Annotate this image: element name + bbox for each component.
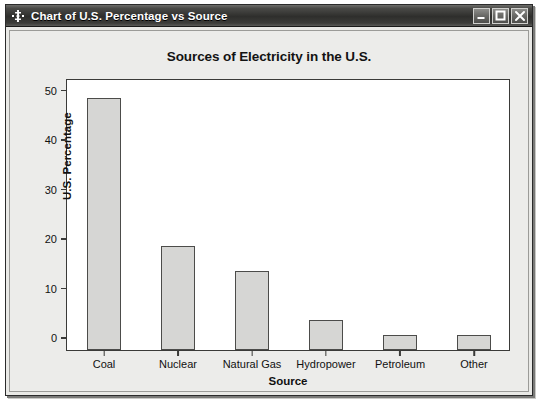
chart-canvas: Sources of Electricity in the U.S. U.S. … [10, 31, 528, 391]
x-axis-title: Source [67, 375, 509, 387]
y-tick: 10 [45, 283, 67, 295]
x-tick: Hydropower [296, 350, 355, 370]
bar-hydropower[interactable] [309, 320, 343, 350]
x-tick: Nuclear [159, 350, 197, 370]
y-tick-label: 50 [45, 85, 61, 97]
x-tick-label: Nuclear [159, 358, 197, 370]
minimize-icon [474, 9, 489, 23]
y-tick: 50 [45, 85, 67, 97]
x-tick-label: Petroleum [375, 358, 425, 370]
x-tick: Coal [93, 350, 116, 370]
bar-coal[interactable] [87, 98, 121, 350]
y-tick-label: 30 [45, 184, 61, 196]
bar-other[interactable] [457, 335, 491, 350]
window-title: Chart of U.S. Percentage vs Source [31, 10, 473, 22]
y-tick-label: 10 [45, 283, 61, 295]
y-tick-label: 20 [45, 233, 61, 245]
maximize-icon [493, 9, 508, 23]
x-tick-label: Hydropower [296, 358, 355, 370]
minimize-button[interactable] [473, 8, 490, 24]
bar-slot [215, 80, 289, 350]
y-tick: 0 [51, 332, 67, 344]
bar-slot [437, 80, 511, 350]
bar-petroleum[interactable] [383, 335, 417, 350]
x-tick-mark [399, 350, 401, 356]
close-icon [512, 9, 527, 23]
x-tick-mark [473, 350, 475, 356]
bar-slot [363, 80, 437, 350]
bar-series [67, 80, 509, 350]
x-tick: Other [460, 350, 488, 370]
x-tick-mark [251, 350, 253, 356]
y-tick: 30 [45, 184, 67, 196]
x-tick-label: Natural Gas [223, 358, 282, 370]
x-tick-label: Coal [93, 358, 116, 370]
maximize-button[interactable] [492, 8, 509, 24]
chart-title: Sources of Electricity in the U.S. [10, 49, 528, 64]
x-tick-mark [177, 350, 179, 356]
move-crosshair-icon [11, 9, 25, 23]
close-button[interactable] [511, 8, 528, 24]
bar-slot [141, 80, 215, 350]
bar-nuclear[interactable] [161, 246, 195, 350]
y-tick: 40 [45, 134, 67, 146]
y-tick: 20 [45, 233, 67, 245]
bar-slot [289, 80, 363, 350]
bar-slot [67, 80, 141, 350]
plot-area: U.S. Percentage 01020304050 CoalNuclearN… [66, 79, 510, 351]
window-titlebar[interactable]: Chart of U.S. Percentage vs Source [6, 5, 532, 27]
x-tick: Natural Gas [223, 350, 282, 370]
x-tick-mark [325, 350, 327, 356]
x-tick: Petroleum [375, 350, 425, 370]
y-tick-label: 40 [45, 134, 61, 146]
bar-natural-gas[interactable] [235, 271, 269, 350]
window-controls [473, 8, 530, 24]
x-tick-label: Other [460, 358, 488, 370]
x-tick-mark [103, 350, 105, 356]
chart-window: Chart of U.S. Percentage vs Source Sour [5, 4, 533, 396]
window-client-area: Sources of Electricity in the U.S. U.S. … [9, 30, 529, 392]
y-tick-label: 0 [51, 332, 61, 344]
